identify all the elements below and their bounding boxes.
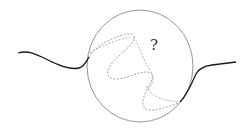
unknown-region-circle <box>87 10 193 122</box>
hidden-dashed-path-upper <box>90 37 130 53</box>
black-box-path-diagram: ? <box>0 0 248 130</box>
left-solid-curve <box>18 52 89 69</box>
hidden-dashed-path-lower <box>146 86 178 102</box>
right-solid-curve <box>180 62 236 102</box>
hidden-dashed-path <box>89 34 179 110</box>
question-mark-label: ? <box>150 36 158 54</box>
